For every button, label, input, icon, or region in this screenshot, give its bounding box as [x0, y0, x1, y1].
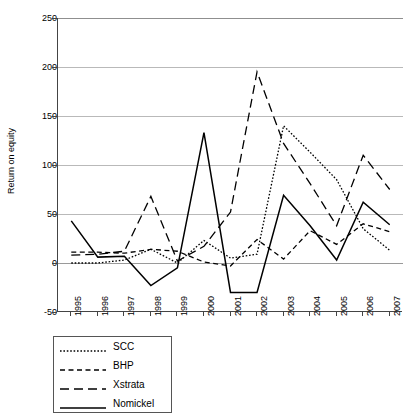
y-tick-label: 100 [5, 161, 57, 170]
legend-item-xstrata[interactable]: Xstrata [54, 375, 171, 394]
legend-item-nomickel[interactable]: Nomickel [54, 394, 171, 413]
x-tick-label: 2001 [234, 296, 243, 316]
y-tick-label: -50 [5, 308, 57, 317]
x-tick-label: 1999 [180, 296, 189, 316]
x-tick-mark [230, 312, 231, 316]
x-tick-mark [97, 312, 98, 316]
x-tick-label: 1996 [101, 296, 110, 316]
y-tick-label: 150 [5, 112, 57, 121]
chart-figure: Return on equity -50050100150200250 1995… [0, 0, 416, 419]
x-tick-mark [150, 312, 151, 316]
legend-swatch-icon [60, 361, 106, 371]
x-tick-label: 1998 [154, 296, 163, 316]
legend-item-scc[interactable]: SCC [54, 337, 171, 356]
series-line-scc [71, 126, 389, 263]
y-tick-label: 50 [5, 210, 57, 219]
y-tick-mark [52, 312, 57, 313]
series-line-xstrata [71, 72, 389, 261]
legend-label: Xstrata [113, 380, 145, 390]
legend-item-bhp[interactable]: BHP [54, 356, 171, 375]
x-axis-ticks: 1995199619971998199920002001200220032004… [0, 0, 416, 70]
legend-swatch-icon [60, 342, 106, 352]
x-tick-label: 2003 [287, 296, 296, 316]
x-tick-label: 1995 [74, 296, 83, 316]
x-tick-label: 2006 [366, 296, 375, 316]
legend-swatch-icon [60, 399, 106, 409]
x-tick-label: 2002 [260, 296, 269, 316]
x-tick-mark [309, 312, 310, 316]
x-tick-mark [176, 312, 177, 316]
x-tick-label: 2007 [393, 296, 402, 316]
x-tick-mark [283, 312, 284, 316]
chart-legend: SCCBHPXstrataNomickel [53, 336, 172, 413]
x-tick-mark [123, 312, 124, 316]
series-line-bhp [71, 224, 389, 266]
x-tick-mark [256, 312, 257, 316]
x-tick-label: 2000 [207, 296, 216, 316]
legend-label: SCC [113, 342, 134, 352]
y-tick-label: 0 [5, 259, 57, 268]
legend-swatch-icon [60, 380, 106, 390]
x-tick-label: 2004 [313, 296, 322, 316]
x-tick-mark [70, 312, 71, 316]
legend-label: BHP [113, 361, 134, 371]
x-tick-label: 2005 [340, 296, 349, 316]
x-tick-mark [336, 312, 337, 316]
x-tick-mark [362, 312, 363, 316]
x-tick-mark [389, 312, 390, 316]
x-tick-mark [203, 312, 204, 316]
x-tick-label: 1997 [127, 296, 136, 316]
legend-label: Nomickel [113, 399, 154, 409]
